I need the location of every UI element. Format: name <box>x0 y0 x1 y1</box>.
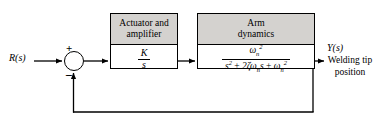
block-actuator-title-line1: Actuator and <box>119 18 168 28</box>
output-description: Welding tip position <box>316 55 384 78</box>
output-description-line2: position <box>335 67 366 77</box>
actuator-numerator: K <box>138 48 151 60</box>
block-arm-dynamics: Arm dynamics ωn2 s2 + 2ζωns + ωn2 <box>197 13 315 69</box>
block-arm-title-line2: dynamics <box>238 29 274 39</box>
output-label: Y(s) <box>327 42 343 53</box>
arm-numerator: ωn2 <box>222 44 290 59</box>
block-arm-body: ωn2 s2 + 2ζωns + ωn2 <box>198 45 314 73</box>
output-description-line1: Welding tip <box>328 55 372 65</box>
reference-input-label: R(s) <box>9 52 26 63</box>
block-diagram: + − R(s) Actuator and amplifier K s Arm … <box>0 0 385 133</box>
actuator-denominator: s <box>138 60 151 71</box>
transfer-function-arm: ωn2 s2 + 2ζωns + ωn2 <box>222 44 290 74</box>
block-arm-title-line1: Arm <box>247 18 264 28</box>
block-actuator-amplifier: Actuator and amplifier K s <box>110 13 178 69</box>
summing-junction-minus-sign: − <box>65 72 72 80</box>
block-actuator-body: K s <box>111 45 177 73</box>
block-actuator-title-line2: amplifier <box>127 29 162 39</box>
summing-junction-plus-sign: + <box>66 42 72 54</box>
arm-denominator: s2 + 2ζωns + ωn2 <box>222 60 290 74</box>
block-arm-title: Arm dynamics <box>198 14 314 45</box>
block-actuator-title: Actuator and amplifier <box>111 14 177 45</box>
transfer-function-actuator: K s <box>138 48 151 71</box>
